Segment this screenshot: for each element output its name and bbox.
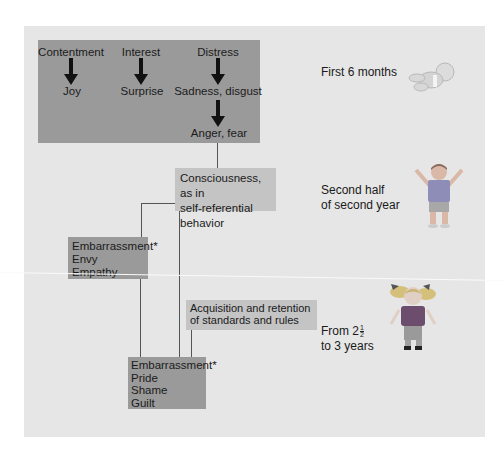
stage-text-prefix: From 2 (321, 324, 359, 338)
arrow-down-icon (211, 58, 225, 86)
arrow-down-icon (64, 58, 78, 86)
stage-text: of second year (321, 198, 400, 213)
arrow-down-icon (211, 100, 225, 128)
stage-text: First 6 months (321, 65, 397, 80)
emotion-embarrassment: Embarrassment* (131, 359, 203, 372)
result-sadness-disgust: Sadness, disgust (174, 84, 262, 98)
toddler-boy-icon (412, 162, 467, 230)
infant-icon (405, 60, 460, 95)
connector-line (141, 203, 175, 204)
consciousness-box: Consciousness, as in self-referential be… (175, 168, 276, 211)
consciousness-line-3: behavior (180, 216, 271, 231)
emotion-embarrassment: Embarrassment* (72, 240, 144, 253)
stage-label-second-year: Second half of second year (321, 183, 400, 213)
connector-line (140, 279, 141, 357)
evaluative-emotions-box: Embarrassment* Pride Shame Guilt (128, 357, 206, 409)
emotion-guilt: Guilt (131, 397, 203, 410)
standards-line-2: of standards and rules (190, 314, 313, 326)
stage-text: Second half (321, 183, 400, 198)
emotion-envy: Envy (72, 253, 144, 266)
stage-text: to 3 years (321, 339, 374, 354)
arrow-down-icon (134, 58, 148, 86)
toddler-girl-icon (385, 284, 440, 354)
connector-line (191, 328, 192, 357)
connector-line (217, 143, 218, 168)
standards-line-1: Acquisition and retention (190, 302, 313, 314)
connector-line (141, 203, 142, 237)
result-anger-fear: Anger, fear (191, 126, 247, 140)
consciousness-line-2: self-referential (180, 201, 271, 216)
fraction-denominator: 2 (360, 332, 364, 338)
fraction: 12 (360, 325, 364, 338)
source-contentment: Contentment (38, 45, 104, 59)
connector-line (179, 210, 180, 357)
emotion-shame: Shame (131, 384, 203, 397)
emotion-pride: Pride (131, 372, 203, 385)
source-interest: Interest (122, 45, 160, 59)
standards-box: Acquisition and retention of standards a… (186, 300, 317, 330)
consciousness-line-1: Consciousness, as in (180, 171, 271, 201)
source-distress: Distress (197, 45, 239, 59)
stage-text: From 212 (321, 324, 374, 339)
stage-label-2-to-3-years: From 212 to 3 years (321, 324, 374, 354)
result-joy: Joy (63, 84, 81, 98)
result-surprise: Surprise (121, 84, 164, 98)
stage-label-first-6-months: First 6 months (321, 65, 397, 80)
